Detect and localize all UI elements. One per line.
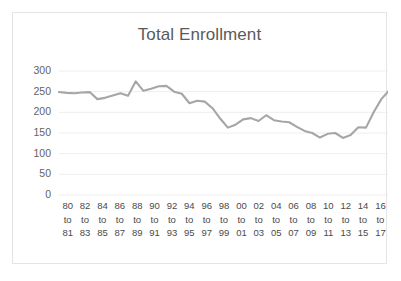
- x-axis-tick-line: 96: [198, 199, 215, 213]
- x-axis-tick-label: 08to09: [302, 199, 319, 240]
- x-axis-tick-line: 06: [285, 199, 302, 213]
- x-axis-tick-label: 00to01: [233, 199, 250, 240]
- y-axis-tick-label: 200: [19, 105, 51, 117]
- x-axis-tick-line: 11: [320, 226, 337, 240]
- x-axis-tick-line: 05: [268, 226, 285, 240]
- x-axis-tick-line: to: [94, 213, 111, 227]
- x-axis-tick-line: 15: [354, 226, 371, 240]
- x-axis-tick-line: 91: [146, 226, 163, 240]
- x-axis-tick-line: 99: [215, 226, 232, 240]
- x-axis-tick-label: 92to93: [163, 199, 180, 240]
- x-axis-tick-line: to: [372, 213, 389, 227]
- x-axis-tick-label: 10to11: [320, 199, 337, 240]
- x-axis-tick-line: 92: [163, 199, 180, 213]
- x-axis-tick-label: 90to91: [146, 199, 163, 240]
- x-axis-tick-label: 88to89: [129, 199, 146, 240]
- x-axis-tick-label: 94to95: [181, 199, 198, 240]
- x-axis-tick-line: to: [146, 213, 163, 227]
- x-axis-tick-label: 04to05: [268, 199, 285, 240]
- x-axis-tick-label: 80to81: [59, 199, 76, 240]
- x-axis-tick-line: to: [285, 213, 302, 227]
- y-axis-tick-label: 300: [19, 64, 51, 76]
- x-axis-tick-line: to: [59, 213, 76, 227]
- x-axis-tick-line: 88: [129, 199, 146, 213]
- x-axis-tick-line: 86: [111, 199, 128, 213]
- x-axis-tick-line: to: [354, 213, 371, 227]
- x-axis-tick-label: 84to85: [94, 199, 111, 240]
- x-axis-tick-line: 87: [111, 226, 128, 240]
- x-axis-tick-line: to: [111, 213, 128, 227]
- x-axis-tick-line: to: [250, 213, 267, 227]
- x-axis-tick-line: 93: [163, 226, 180, 240]
- x-axis-tick-label: 16to17: [372, 199, 389, 240]
- x-axis-tick-line: to: [268, 213, 285, 227]
- x-axis-tick-line: to: [181, 213, 198, 227]
- x-axis-tick-label: 86to87: [111, 199, 128, 240]
- x-axis-tick-line: to: [198, 213, 215, 227]
- x-axis-tick-line: 08: [302, 199, 319, 213]
- x-axis-tick-line: 95: [181, 226, 198, 240]
- x-axis-tick-line: 90: [146, 199, 163, 213]
- y-axis-tick-label: 100: [19, 147, 51, 159]
- x-axis-tick-line: to: [337, 213, 354, 227]
- x-axis-tick-line: 16: [372, 199, 389, 213]
- x-axis-tick-line: to: [302, 213, 319, 227]
- x-axis-tick-label: 14to15: [354, 199, 371, 240]
- x-axis-tick-label: 82to83: [76, 199, 93, 240]
- x-axis-tick-line: 13: [337, 226, 354, 240]
- x-axis-labels: 80to8182to8384to8586to8788to8990to9192to…: [59, 199, 389, 255]
- enrollment-line: [59, 81, 388, 138]
- y-axis-tick-label: 250: [19, 85, 51, 97]
- x-axis-tick-line: 14: [354, 199, 371, 213]
- x-axis-tick-line: 98: [215, 199, 232, 213]
- x-axis-tick-line: 84: [94, 199, 111, 213]
- x-axis-tick-line: 04: [268, 199, 285, 213]
- x-axis-tick-line: 89: [129, 226, 146, 240]
- x-axis-tick-line: to: [320, 213, 337, 227]
- x-axis-tick-line: 09: [302, 226, 319, 240]
- x-axis-tick-line: 83: [76, 226, 93, 240]
- x-axis-tick-line: to: [129, 213, 146, 227]
- x-axis-tick-label: 02to03: [250, 199, 267, 240]
- x-axis-tick-line: 12: [337, 199, 354, 213]
- x-axis-tick-line: 07: [285, 226, 302, 240]
- y-axis-tick-label: 0: [19, 188, 51, 200]
- x-axis-tick-line: 81: [59, 226, 76, 240]
- y-axis-tick-label: 150: [19, 126, 51, 138]
- y-axis-tick-label: 50: [19, 167, 51, 179]
- x-axis-tick-line: 82: [76, 199, 93, 213]
- chart-card: Total Enrollment 300250200150100500 80to…: [12, 12, 387, 264]
- x-axis-tick-line: to: [76, 213, 93, 227]
- x-axis-tick-line: 94: [181, 199, 198, 213]
- x-axis-tick-line: 80: [59, 199, 76, 213]
- x-axis-tick-line: to: [163, 213, 180, 227]
- x-axis-tick-line: 03: [250, 226, 267, 240]
- x-axis-tick-line: 85: [94, 226, 111, 240]
- x-axis-tick-line: 02: [250, 199, 267, 213]
- x-axis-tick-line: 17: [372, 226, 389, 240]
- x-axis-tick-label: 96to97: [198, 199, 215, 240]
- x-axis-tick-label: 98to99: [215, 199, 232, 240]
- x-axis-tick-label: 12to13: [337, 199, 354, 240]
- x-axis-tick-line: 00: [233, 199, 250, 213]
- x-axis-tick-line: 01: [233, 226, 250, 240]
- x-axis-tick-line: to: [233, 213, 250, 227]
- x-axis-tick-label: 06to07: [285, 199, 302, 240]
- x-axis-tick-line: to: [215, 213, 232, 227]
- y-axis-labels: 300250200150100500: [19, 13, 51, 265]
- x-axis-tick-line: 10: [320, 199, 337, 213]
- gridlines: [59, 71, 388, 195]
- x-axis-tick-line: 97: [198, 226, 215, 240]
